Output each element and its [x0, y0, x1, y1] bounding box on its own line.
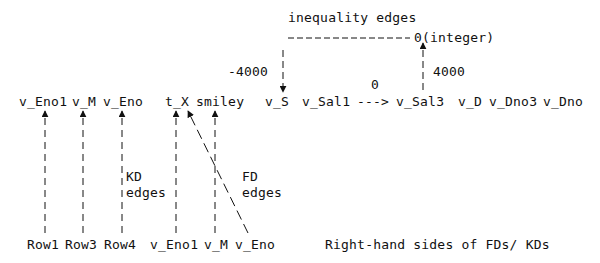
node-bottom-v-m: v_M: [204, 238, 228, 252]
fd-edge-v-eno-x: [188, 111, 248, 233]
node-v-dno3: v_Dno3: [489, 95, 537, 109]
kd-label-line2: edges: [126, 186, 166, 200]
node-v-s: v_S: [265, 95, 289, 109]
edges-layer: [0, 0, 600, 263]
node-v-eno1: v_Eno1: [19, 95, 67, 109]
node-bottom-v-eno1: v_Eno1: [150, 238, 198, 252]
node-row1: Row1: [27, 238, 59, 252]
kd-label-line1: KD: [126, 170, 142, 184]
bottom-caption: Right-hand sides of FDs/ KDs: [325, 238, 550, 252]
node-v-sal3: v_Sal3: [396, 95, 444, 109]
fd-label-line2: edges: [242, 186, 282, 200]
node-v-d: v_D: [458, 95, 482, 109]
node-v-eno: v_Eno: [103, 95, 143, 109]
node-row3: Row3: [65, 238, 97, 252]
inequality-edges-label: inequality edges: [288, 11, 416, 25]
weight-right: 4000: [433, 65, 465, 79]
integer-node: 0(integer): [414, 31, 494, 45]
weight-middle: 0: [371, 78, 379, 92]
edge-arrow-sal1-sal3: --->: [357, 95, 389, 109]
node-row4: Row4: [104, 238, 136, 252]
node-v-sal1: v_Sal1: [302, 95, 350, 109]
node-smiley: smiley: [196, 95, 244, 109]
node-t-x: t_X: [165, 95, 189, 109]
node-v-m: v_M: [72, 95, 96, 109]
weight-left: -4000: [228, 65, 268, 79]
node-v-dno: v_Dno: [543, 95, 583, 109]
node-bottom-v-eno: v_Eno: [235, 238, 275, 252]
fd-label-line1: FD: [242, 170, 258, 184]
